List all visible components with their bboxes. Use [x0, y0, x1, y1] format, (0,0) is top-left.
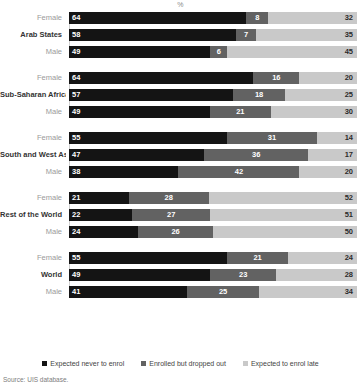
region-group: Female212852Rest of the World222751Male2…	[0, 192, 361, 238]
bar-value-label: 23	[210, 269, 276, 281]
bar-value-label: 34	[259, 286, 357, 298]
bar-segment-never: 38	[69, 166, 178, 178]
bar-value-label: 31	[227, 132, 316, 144]
bar-segment-dropped: 23	[210, 269, 276, 281]
bar-segment-late: 20	[299, 166, 357, 178]
bar-segment-late: 17	[308, 149, 357, 161]
series-category-label: Female	[0, 72, 66, 84]
legend-item-dropped[interactable]: Enrolled but dropped out	[141, 360, 226, 367]
region-label: Arab States	[0, 29, 66, 41]
bar-value-label: 16	[253, 72, 299, 84]
bar-segment-never: 41	[69, 286, 187, 298]
stacked-bar: 222751	[69, 209, 357, 221]
region-label: South and West Asia	[0, 149, 66, 161]
bar-segment-dropped: 6	[210, 46, 227, 58]
bar-segment-never: 57	[69, 89, 233, 101]
bar-row: Rest of the World222751	[0, 209, 361, 221]
bar-value-label: 49	[72, 106, 80, 118]
series-category-label: Male	[0, 106, 66, 118]
bar-value-label: 47	[72, 149, 80, 161]
legend-swatch-icon	[42, 361, 47, 366]
bar-value-label: 6	[210, 46, 227, 58]
bar-row: Female641620	[0, 72, 361, 84]
stacked-bar: 49645	[69, 46, 357, 58]
legend-label: Enrolled but dropped out	[149, 360, 226, 367]
bar-value-label: 30	[271, 106, 357, 118]
stacked-bar: 553114	[69, 132, 357, 144]
bar-segment-dropped: 7	[236, 29, 256, 41]
bar-segment-dropped: 36	[204, 149, 308, 161]
bar-segment-late: 35	[256, 29, 357, 41]
bar-segment-never: 49	[69, 269, 210, 281]
bar-value-label: 24	[72, 226, 80, 238]
bar-segment-dropped: 27	[132, 209, 210, 221]
bar-segment-dropped: 25	[187, 286, 259, 298]
bar-value-label: 51	[210, 209, 357, 221]
bar-row: Male242650	[0, 226, 361, 238]
bar-value-label: 28	[129, 192, 209, 204]
bar-row: Female552124	[0, 252, 361, 264]
bar-segment-never: 64	[69, 12, 246, 24]
bar-segment-late: 45	[227, 46, 357, 58]
axis-unit-label: %	[0, 1, 361, 8]
legend-swatch-icon	[243, 361, 248, 366]
bar-segment-dropped: 21	[210, 106, 270, 118]
bar-segment-late: 34	[259, 286, 357, 298]
bar-row: Male384220	[0, 166, 361, 178]
bar-value-label: 36	[204, 149, 308, 161]
bar-segment-never: 47	[69, 149, 204, 161]
bar-segment-dropped: 42	[178, 166, 299, 178]
series-category-label: Male	[0, 286, 66, 298]
bar-value-label: 64	[72, 72, 80, 84]
bar-row: Female553114	[0, 132, 361, 144]
bar-segment-dropped: 18	[233, 89, 285, 101]
bar-row: Male49645	[0, 46, 361, 58]
bar-row: Male412534	[0, 286, 361, 298]
stacked-bar: 412534	[69, 286, 357, 298]
bar-segment-late: 28	[276, 269, 357, 281]
bar-row: World492328	[0, 269, 361, 281]
region-label: Sub-Saharan Africa	[0, 89, 66, 101]
legend-label: Expected to enrol late	[251, 360, 319, 367]
bar-segment-dropped: 16	[253, 72, 299, 84]
stacked-bar: 571825	[69, 89, 357, 101]
bar-segment-late: 24	[288, 252, 357, 264]
bar-segment-never: 64	[69, 72, 253, 84]
bar-value-label: 21	[210, 106, 270, 118]
bar-value-label: 35	[256, 29, 357, 41]
bar-segment-late: 30	[271, 106, 357, 118]
bar-value-label: 25	[285, 89, 357, 101]
bar-value-label: 38	[72, 166, 80, 178]
stacked-bar: 473617	[69, 149, 357, 161]
bar-value-label: 32	[268, 12, 357, 24]
bar-segment-late: 51	[210, 209, 357, 221]
bar-segment-dropped: 28	[129, 192, 209, 204]
bar-segment-never: 49	[69, 46, 210, 58]
bar-segment-late: 20	[299, 72, 357, 84]
legend-item-never[interactable]: Expected never to enrol	[42, 360, 124, 367]
bar-segment-never: 58	[69, 29, 236, 41]
bar-segment-dropped: 31	[227, 132, 316, 144]
bar-value-label: 49	[72, 269, 80, 281]
bar-value-label: 55	[72, 252, 80, 264]
bar-value-label: 14	[317, 132, 357, 144]
series-category-label: Male	[0, 166, 66, 178]
chart-plot-area: Female64832Arab States58735Male49645Fema…	[0, 12, 361, 298]
bar-segment-dropped: 8	[246, 12, 268, 24]
bar-value-label: 58	[72, 29, 80, 41]
region-group: Female553114South and West Asia473617Mal…	[0, 132, 361, 178]
bar-value-label: 57	[72, 89, 80, 101]
series-category-label: Female	[0, 12, 66, 24]
bar-segment-late: 14	[317, 132, 357, 144]
bar-value-label: 21	[227, 252, 287, 264]
stacked-bar: 384220	[69, 166, 357, 178]
bar-value-label: 22	[72, 209, 80, 221]
series-category-label: Male	[0, 46, 66, 58]
stacked-bar-chart: % Female64832Arab States58735Male49645Fe…	[0, 0, 361, 388]
bar-value-label: 27	[132, 209, 210, 221]
bar-value-label: 18	[233, 89, 285, 101]
stacked-bar: 552124	[69, 252, 357, 264]
legend-item-late[interactable]: Expected to enrol late	[243, 360, 319, 367]
bar-segment-late: 25	[285, 89, 357, 101]
stacked-bar: 242650	[69, 226, 357, 238]
